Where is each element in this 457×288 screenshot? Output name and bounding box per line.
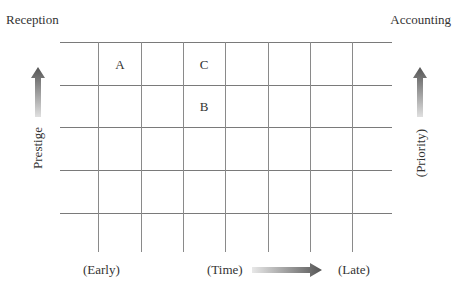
cell-label-b: B bbox=[200, 99, 209, 115]
corner-label-reception: Reception bbox=[6, 12, 59, 28]
grid-vline-3 bbox=[183, 42, 184, 252]
grid-hline-3 bbox=[60, 127, 392, 128]
axis-label-prestige: Prestige bbox=[30, 127, 46, 169]
cell-label-a: A bbox=[115, 57, 124, 73]
grid-hline-2 bbox=[60, 85, 392, 86]
grid-hline-1 bbox=[60, 42, 392, 43]
grid-vline-1 bbox=[98, 42, 99, 252]
grid-vline-2 bbox=[141, 42, 142, 252]
grid-vline-5 bbox=[268, 42, 269, 252]
arrow-up-icon bbox=[413, 67, 427, 117]
corner-label-accounting: Accounting bbox=[390, 12, 451, 28]
grid-vline-4 bbox=[225, 42, 226, 252]
axis-label-time: (Time) bbox=[207, 262, 243, 278]
axis-label-late: (Late) bbox=[338, 262, 370, 278]
grid-vline-7 bbox=[352, 42, 353, 252]
axis-label-early: (Early) bbox=[83, 262, 120, 278]
grid-hline-5 bbox=[60, 213, 392, 214]
arrow-up-icon bbox=[31, 67, 45, 117]
arrow-right-icon bbox=[252, 263, 322, 277]
cell-label-c: C bbox=[200, 57, 209, 73]
axis-label-priority: (Priority) bbox=[413, 129, 429, 177]
grid-hline-4 bbox=[60, 170, 392, 171]
grid-vline-6 bbox=[310, 42, 311, 252]
